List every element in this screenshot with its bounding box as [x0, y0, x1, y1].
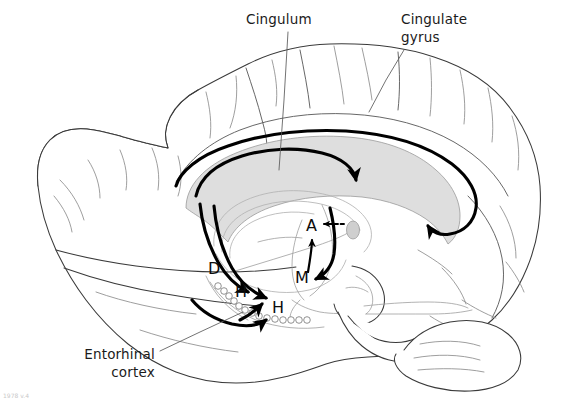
marker-letter-h-upper: H	[235, 282, 247, 301]
marker-letter-m: M	[295, 268, 309, 287]
marker-letter-a: A	[306, 216, 317, 235]
label-entorhinal-cortex-line1: Entorhinal	[84, 346, 155, 362]
habenula-blob	[347, 221, 360, 239]
label-entorhinal-cortex-line2: cortex	[111, 364, 155, 380]
label-cingulate-gyrus-line1: Cingulate	[401, 11, 467, 27]
brain-diagram-canvas: D H H M A Cingulum Cingulate gyrus Entor…	[0, 0, 566, 402]
label-cingulum: Cingulum	[246, 11, 312, 27]
label-cingulate-gyrus-line2: gyrus	[401, 29, 440, 45]
marker-letter-h-lower: H	[272, 298, 284, 317]
marker-letter-d: D	[208, 259, 220, 278]
brain-diagram-figure: D H H M A Cingulum Cingulate gyrus Entor…	[0, 0, 566, 402]
figure-credit-text: 1978 v.4	[3, 392, 29, 399]
